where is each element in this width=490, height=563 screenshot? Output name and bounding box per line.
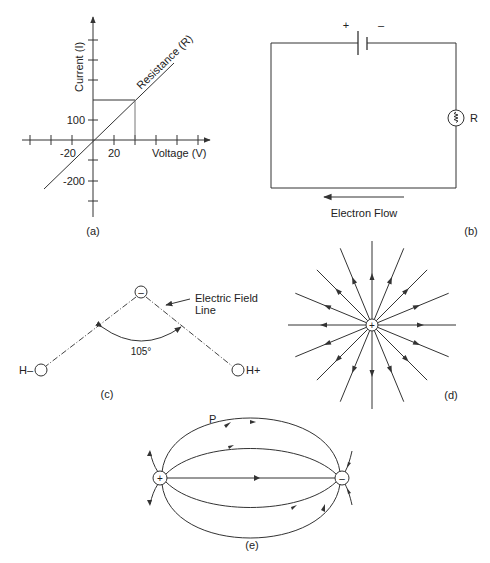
arrow-icon <box>370 370 375 377</box>
arrow-icon <box>413 305 420 310</box>
arrow-icon <box>321 504 325 512</box>
y-tick-label-100: 100 <box>67 114 85 126</box>
y-tick-label-minus200: -200 <box>63 175 85 187</box>
caption-a: (a) <box>86 225 99 237</box>
caption-e: (e) <box>245 539 258 551</box>
panel-a-iv-graph: 100 -200 -20 20 Voltage (V) Current (I) … <box>22 17 210 237</box>
bond-angle-arc <box>102 327 181 341</box>
radial-field-line <box>295 293 366 322</box>
circuit-wire-top-right <box>367 43 456 110</box>
field-line-right <box>146 297 232 366</box>
field-line-left <box>46 297 136 366</box>
circuit-wire-left-bottom <box>271 43 456 188</box>
hydrogen-right-label: H+ <box>246 364 260 376</box>
battery-minus-label: – <box>378 19 385 31</box>
arrow-icon <box>347 462 351 468</box>
dipole-field-line-upper-outer <box>162 418 340 472</box>
y-axis-label: Current (I) <box>73 42 85 92</box>
radial-field-line <box>374 248 403 319</box>
oxygen-charge-sign: – <box>138 287 144 298</box>
resistance-line <box>44 63 174 189</box>
hydrogen-right <box>232 364 244 376</box>
arrow-icon <box>413 340 420 345</box>
caption-d: (d) <box>444 389 457 401</box>
arrow-icon <box>147 500 152 506</box>
dipole-field-line-lower-inner <box>166 482 336 508</box>
radial-field-line <box>378 327 449 356</box>
arrow-icon <box>250 420 256 424</box>
x-tick-label-minus20: -20 <box>60 147 76 159</box>
resistor-zigzag-icon <box>454 112 458 123</box>
arrow-icon <box>347 488 351 494</box>
panel-e-dipole-field: + – P (e) <box>147 413 352 551</box>
callout-label-line1: Electric Field <box>195 292 258 304</box>
radial-field-line <box>374 331 403 402</box>
callout-label-line2: Line <box>195 304 216 316</box>
point-p-label: P <box>209 413 216 425</box>
radial-field-line <box>340 331 369 402</box>
dipole-positive-sign: + <box>157 473 163 484</box>
dipole-negative-sign: – <box>339 473 345 484</box>
caption-c: (c) <box>101 388 114 400</box>
caption-b: (b) <box>464 225 477 237</box>
panel-b-circuit: + – R Electron Flow (b) <box>271 19 478 237</box>
battery-plus-label: + <box>343 19 349 31</box>
electron-flow-label: Electron Flow <box>331 207 398 219</box>
arrow-icon <box>224 422 231 428</box>
radial-field-line <box>295 327 366 356</box>
arrow-icon <box>352 366 357 373</box>
bond-angle-label: 105° <box>131 346 152 357</box>
arrow-icon <box>254 475 260 481</box>
callout-arrow <box>166 299 190 305</box>
panel-c-water-molecule: – H– H+ 105° Electric Field Line (c) <box>19 286 260 400</box>
x-axis-label: Voltage (V) <box>152 147 206 159</box>
panel-d-radial-field: + (d) <box>288 241 458 409</box>
arrow-icon <box>291 505 297 510</box>
hydrogen-left-label: H– <box>19 364 34 376</box>
dipole-field-line-upper-inner <box>166 449 336 475</box>
arrow-icon <box>352 277 357 284</box>
resistance-label: Resistance (R) <box>134 32 195 91</box>
resistor-label: R <box>470 112 478 124</box>
arrow-icon <box>417 323 424 328</box>
arrow-icon <box>387 277 392 284</box>
radial-field-line <box>378 293 449 322</box>
arrow-icon <box>147 450 152 456</box>
stray-line-minus-down <box>345 484 352 505</box>
radial-field-line <box>340 248 369 319</box>
x-tick-label-20: 20 <box>108 147 120 159</box>
arrow-icon <box>324 340 331 345</box>
positive-charge-sign: + <box>369 320 375 331</box>
arrow-icon <box>387 366 392 373</box>
arrow-icon <box>320 323 327 328</box>
arrow-icon <box>370 273 375 280</box>
stray-line-minus-up <box>345 451 352 472</box>
arrow-icon <box>324 305 331 310</box>
arrow-icon <box>228 445 234 449</box>
dipole-field-line-lower-outer <box>162 484 340 538</box>
hydrogen-left <box>35 364 47 376</box>
